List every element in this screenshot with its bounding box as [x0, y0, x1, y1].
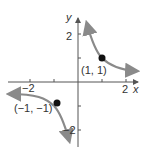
tick-label-y-2: 2 — [66, 30, 72, 42]
point-1-1 — [99, 55, 106, 62]
tick-label-x-neg2: −2 — [22, 82, 35, 94]
graph-figure: y x 2 −2 −2 2 (1, 1) (−1, −1) — [0, 0, 149, 154]
chart-svg: y x 2 −2 −2 2 (1, 1) (−1, −1) — [0, 0, 149, 154]
point-label-neg: (−1, −1) — [14, 102, 53, 114]
point-label-pos: (1, 1) — [81, 64, 107, 76]
x-axis-label: x — [132, 83, 139, 95]
tick-label-x-2: 2 — [122, 83, 128, 95]
point-neg1-neg1 — [54, 100, 61, 107]
tick-label-y-neg2: −2 — [63, 124, 76, 136]
y-axis-label: y — [65, 11, 73, 23]
curve-branch-positive-tail — [102, 58, 136, 71]
curve-branch-positive — [87, 24, 102, 58]
